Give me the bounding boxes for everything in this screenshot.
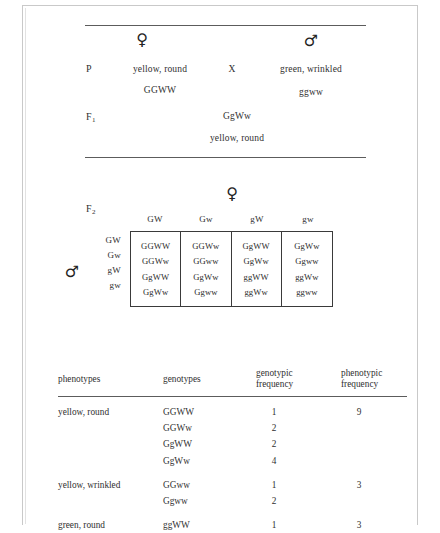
- cell-phenotype: yellow, round: [58, 404, 109, 420]
- cell-genotypic-frequency: 1: [268, 404, 280, 420]
- punnett-cell-r0c2: GgWW: [243, 239, 270, 254]
- punnett-cell-r0c3: GgWw: [294, 239, 319, 254]
- cell-genotype: GGww: [163, 477, 190, 493]
- punnett-col-header-2: gW: [250, 214, 263, 224]
- cell-phenotype: yellow, wrinkled: [58, 477, 120, 493]
- punnett-cell-r3c2: ggWw: [244, 285, 267, 300]
- punnett-cell-r2c2: ggWW: [244, 270, 269, 285]
- cell-genotype: Ggww: [163, 493, 188, 509]
- table-row: yellow, wrinkledGGww13: [58, 477, 408, 493]
- cell-genotype: GgWW: [163, 436, 192, 452]
- cell-genotypic-frequency: 1: [268, 477, 280, 493]
- col-header-phenotypic-line2: frequency: [341, 379, 382, 390]
- f1-phenotype: yellow, round: [210, 133, 264, 144]
- frequency-table-header-rule: [58, 396, 407, 397]
- col-header-phenotypic-frequency: phenotypic frequency: [341, 368, 382, 389]
- punnett-cell-r1c3: Ggww: [295, 254, 318, 269]
- punnett-row-header-2: gW: [95, 265, 121, 275]
- cell-genotypic-frequency: 4: [268, 453, 280, 469]
- cross-sign: X: [228, 64, 235, 75]
- p-female-genotype: GGWW: [144, 85, 176, 96]
- punnett-cell-r0c0: GGWW: [141, 239, 170, 254]
- generation-label-p: P: [86, 63, 92, 74]
- punnett-column-0: GGWW GGWw GgWW GgWw: [131, 232, 181, 306]
- table-row: GgWw4: [58, 453, 408, 469]
- male-symbol-icon: ♂: [304, 33, 318, 49]
- punnett-row-header-3: gw: [95, 280, 121, 290]
- punnett-cell-r3c1: Ggww: [194, 285, 217, 300]
- punnett-row-header-1: Gw: [95, 250, 121, 260]
- cell-phenotypic-frequency: 3: [353, 517, 365, 533]
- punnett-column-3: GgWw Ggww ggWw ggww: [282, 232, 332, 306]
- frequency-table-header-row: phenotypes genotypes genotypic frequency…: [58, 364, 408, 394]
- punnett-cell-r2c3: ggWw: [295, 270, 318, 285]
- cell-phenotypic-frequency: 9: [353, 404, 365, 420]
- punnett-cell-r1c1: GGww: [193, 254, 218, 269]
- col-header-phenotypic-line1: phenotypic: [341, 368, 382, 379]
- cell-genotypic-frequency: 1: [268, 517, 280, 533]
- generation-label-f1: F1: [86, 111, 95, 122]
- col-header-genotypic-line2: frequency: [256, 379, 293, 390]
- generation-label-f2: F2: [86, 203, 95, 214]
- cell-genotypic-frequency: 2: [268, 436, 280, 452]
- punnett-cell-r2c0: GgWW: [142, 270, 169, 285]
- frequency-table-body: yellow, roundGGWW19GGWw2GgWW2GgWw4yellow…: [58, 404, 408, 533]
- punnett-col-header-0: GW: [147, 214, 162, 224]
- punnett-col-header-1: Gw: [199, 214, 212, 224]
- frequency-table: phenotypes genotypes genotypic frequency…: [58, 364, 408, 394]
- punnett-male-symbol-icon: ♂: [65, 264, 79, 280]
- punnett-cell-r3c3: ggww: [296, 285, 317, 300]
- cell-genotype: GgWw: [163, 453, 190, 469]
- cell-phenotype: green, round: [58, 517, 105, 533]
- punnett-column-2: GgWW GgWw ggWW ggWw: [232, 232, 282, 306]
- punnett-cell-r1c2: GgWw: [244, 254, 269, 269]
- punnett-cell-r0c1: GGWw: [192, 239, 219, 254]
- col-header-genotypic-line1: genotypic: [256, 368, 293, 379]
- table-row: GgWW2: [58, 436, 408, 452]
- f1-genotype: GgWw: [223, 111, 251, 122]
- table-row: green, roundggWW13: [58, 517, 408, 533]
- punnett-col-header-3: gw: [302, 214, 313, 224]
- punnett-cell-r2c1: GgWw: [193, 270, 218, 285]
- col-header-genotypes: genotypes: [163, 374, 201, 385]
- cell-genotype: GGWW: [163, 404, 194, 420]
- cell-genotypic-frequency: 2: [268, 493, 280, 509]
- divider-rule-middle: [85, 157, 366, 158]
- cell-genotype: ggWW: [163, 517, 190, 533]
- p-male-phenotype: green, wrinkled: [280, 64, 342, 75]
- divider-rule-top: [85, 25, 366, 26]
- p-male-genotype: ggww: [299, 87, 323, 98]
- col-header-genotypic-frequency: genotypic frequency: [256, 368, 293, 389]
- cell-phenotypic-frequency: 3: [353, 477, 365, 493]
- cell-genotypic-frequency: 2: [268, 420, 280, 436]
- table-row: Ggww2: [58, 493, 408, 509]
- cell-genotype: GGWw: [163, 420, 192, 436]
- punnett-female-symbol-icon: ♀: [226, 186, 238, 202]
- punnett-column-1: GGWw GGww GgWw Ggww: [181, 232, 231, 306]
- punnett-square-grid: GGWW GGWw GgWW GgWw GGWw GGww GgWw Ggww …: [130, 231, 333, 307]
- punnett-cell-r1c0: GGWw: [142, 254, 169, 269]
- punnett-row-header-0: GW: [95, 235, 121, 245]
- female-symbol-icon: ♀: [136, 32, 148, 48]
- p-female-phenotype: yellow, round: [133, 64, 187, 75]
- table-row: yellow, roundGGWW19: [58, 404, 408, 420]
- table-row: GGWw2: [58, 420, 408, 436]
- punnett-cell-r3c0: GgWw: [143, 285, 168, 300]
- col-header-phenotypes: phenotypes: [58, 374, 100, 385]
